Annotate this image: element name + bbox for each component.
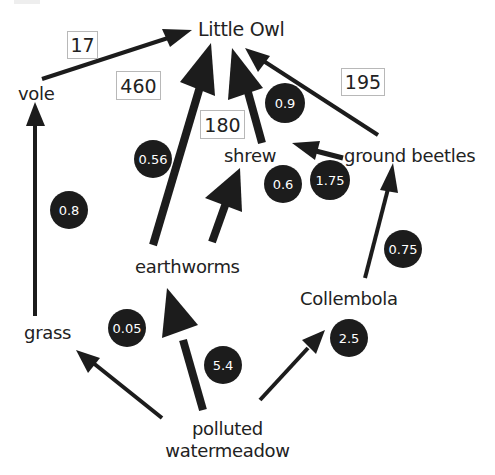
node-little-owl: Little Owl <box>198 18 285 40</box>
badge-grass-to-vole: 0.8 <box>50 191 88 229</box>
box-vole-to-owl: 17 <box>67 31 98 59</box>
box-earthworms-to-owl: 460 <box>116 71 161 100</box>
arrow-earthworms-to-shrew <box>205 168 242 242</box>
node-grass: grass <box>24 322 71 344</box>
node-collembola: Collembola <box>300 288 398 310</box>
badge-beetles-to-shrew: 1.75 <box>310 160 350 200</box>
node-polluted-watermeadow: polluted watermeadow <box>155 418 300 462</box>
node-ground-beetles: ground beetles <box>344 145 475 167</box>
badge-meadow-to-earthworms: 5.4 <box>204 346 242 384</box>
badge-shrew-to-owl: 0.9 <box>265 83 305 123</box>
badge-earthworms-to-shrew: 0.6 <box>264 165 302 203</box>
node-earthworms: earthworms <box>135 256 240 278</box>
badge-meadow-to-grass: 0.05 <box>108 309 146 347</box>
box-shrew-to-owl: 180 <box>200 110 245 139</box>
badge-collembola-to-beetles: 0.75 <box>384 230 422 268</box>
node-source-line2: watermeadow <box>155 440 300 462</box>
box-beetles-to-owl: 195 <box>341 68 385 96</box>
arrow-grass-to-vole <box>26 102 45 316</box>
badge-meadow-to-collembola: 2.5 <box>330 319 368 357</box>
arrow-meadow-to-grass <box>76 350 162 418</box>
faint-mark <box>14 0 40 4</box>
arrow-meadow-to-earthworms <box>162 288 203 410</box>
node-shrew: shrew <box>224 145 276 167</box>
badge-earthworms-to-owl: 0.56 <box>134 140 172 178</box>
arrow-beetles-to-shrew <box>292 141 343 160</box>
arrows-layer <box>0 0 495 475</box>
arrow-meadow-to-collembola <box>260 330 325 400</box>
node-vole: vole <box>18 83 55 105</box>
node-source-line1: polluted <box>155 418 300 440</box>
food-web-diagram: Little Owl vole shrew ground beetles ear… <box>0 0 495 475</box>
